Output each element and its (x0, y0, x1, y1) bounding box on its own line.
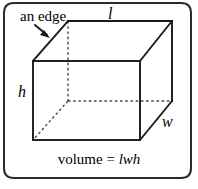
caption-left-text: volume = (58, 151, 119, 167)
label-width-w: w (162, 114, 173, 130)
label-length-l: l (108, 6, 112, 22)
caption-variables: lwh (119, 151, 141, 167)
label-height-h: h (18, 84, 26, 100)
volume-formula-caption: volume = lwh (0, 152, 198, 167)
label-an-edge: an edge (20, 9, 66, 24)
volume-figure: an edge l w h volume = lwh (0, 0, 198, 189)
